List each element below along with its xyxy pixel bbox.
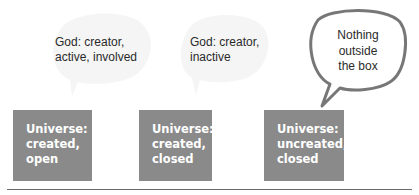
box-line: uncreated, bbox=[277, 137, 344, 152]
bubble-line: the box bbox=[326, 59, 390, 75]
box-line: created, bbox=[26, 137, 92, 152]
baseline-rule bbox=[7, 189, 412, 190]
box-line: Universe: bbox=[277, 122, 344, 137]
bubble-line: Nothing bbox=[326, 28, 390, 44]
box-line: closed bbox=[277, 152, 344, 167]
box-line: Universe: bbox=[26, 122, 92, 137]
box-line: created, bbox=[152, 137, 212, 152]
caption-line: active, involved bbox=[55, 50, 137, 65]
caption-line: God: creator, bbox=[55, 35, 137, 50]
caption-line: inactive bbox=[190, 50, 259, 65]
universe-box-created-open: Universe: created, open bbox=[13, 110, 92, 181]
caption-line: God: creator, bbox=[190, 35, 259, 50]
bubble-line: outside bbox=[326, 44, 390, 60]
caption-god-creator-active: God: creator, active, involved bbox=[55, 35, 137, 65]
universe-box-created-closed: Universe: created, closed bbox=[139, 110, 212, 181]
universe-box-uncreated-closed: Universe: uncreated, closed bbox=[264, 110, 344, 181]
box-line: closed bbox=[152, 152, 212, 167]
box-line: Universe: bbox=[152, 122, 212, 137]
box-line: open bbox=[26, 152, 92, 167]
speech-bubble-text: Nothing outside the box bbox=[326, 28, 390, 75]
caption-god-creator-inactive: God: creator, inactive bbox=[190, 35, 259, 65]
